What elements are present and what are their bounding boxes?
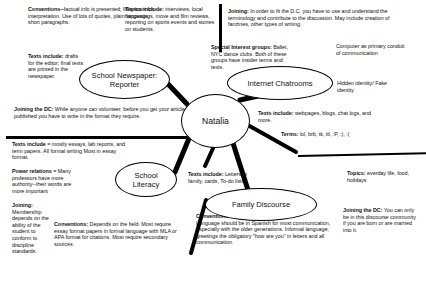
annotation-chatrooms-texts-head: Texts include: <box>258 110 293 116</box>
annotation-chatrooms-terms-head: Terms: <box>281 131 298 137</box>
annotation-school-joining-head: Joining: <box>12 202 33 208</box>
annotation-family-joining: Joining the DC: You can only be in this … <box>343 207 419 233</box>
annotation-family-joining-head: Joining the DC: <box>343 207 382 213</box>
annotation-chatrooms-terms: Terms: lol, brb, tk, ttl, :P, :), :( <box>281 131 401 138</box>
annotation-family-texts: Texts include: Letters to family, cards,… <box>188 171 254 184</box>
annotation-newspaper-topics-head: Topics include: <box>125 6 164 12</box>
node-school-literacy-label-line2: Literacy <box>133 180 160 189</box>
annotation-chatrooms-identity-text: Hidden identity/ Fake identity <box>337 80 387 93</box>
annotation-chatrooms-joining: Joining: In order to fit the D.C. you ha… <box>228 8 400 28</box>
annotation-newspaper-conventions-head: Conventions-- <box>28 6 64 12</box>
node-internet-chatrooms-label: Internet Chatrooms <box>248 79 313 88</box>
node-center-label: Natalia <box>202 117 229 126</box>
annotation-chatrooms-terms-body: lol, brb, tk, ttl, :P, :), :( <box>300 131 350 137</box>
node-family-discourse-label: Family Discourse <box>232 200 290 209</box>
node-school-newspaper[interactable]: School Newspaper: Reporter <box>79 60 170 99</box>
annotation-school-power-head: Power relations = <box>12 168 56 174</box>
mindmap-canvas: Conventions--factual info is presented; … <box>0 0 426 297</box>
annotation-chatrooms-texts: Texts include: webpages, blogs, chat log… <box>258 110 378 123</box>
annotation-school-conventions-head: Conventions: <box>54 221 88 227</box>
annotation-school-joining: Joining: Membership depends on the abili… <box>12 202 50 255</box>
annotation-school-power: Power relations = Many professors have m… <box>12 168 84 194</box>
divider-right <box>298 152 426 157</box>
annotation-newspaper-texts: Texts include: drafts for the editor; fi… <box>28 53 84 79</box>
annotation-newspaper-topics: Topics include: interviews, local happen… <box>125 6 215 32</box>
annotation-chatrooms-computer: Computer as primary conduit of communica… <box>336 43 410 56</box>
annotation-newspaper-texts-head: Texts include: <box>28 53 63 59</box>
node-school-literacy-label: School Literacy <box>133 171 160 189</box>
annotation-chatrooms-joining-head: Joining: <box>228 8 249 14</box>
divider-left <box>6 136 206 139</box>
node-center-natalia[interactable]: Natalia <box>181 94 250 148</box>
node-school-literacy-label-line1: School <box>134 171 157 180</box>
annotation-chatrooms-joining-body: In order to fit the D.C. you have to use… <box>228 8 390 27</box>
node-family-discourse[interactable]: Family Discourse <box>205 188 317 221</box>
node-school-newspaper-label: School Newspaper: Reporter <box>92 71 158 89</box>
annotation-chatrooms-special-head: Special Interest groups: <box>211 44 272 50</box>
node-school-newspaper-label-line1: School Newspaper: <box>92 71 158 80</box>
node-school-literacy[interactable]: School Literacy <box>115 162 177 197</box>
node-school-newspaper-label-line2: Reporter <box>110 80 140 89</box>
annotation-newspaper-joining: Joining the DC: While anyone can volunte… <box>14 106 192 119</box>
annotation-family-topics: Topics: everday life, food, holidays <box>347 170 423 183</box>
annotation-newspaper-joining-head: Joining the DC: <box>14 106 53 112</box>
annotation-chatrooms-computer-text: Computer as primary conduit of communica… <box>336 43 404 56</box>
annotation-family-conventions-body: Language should be in Spanish for most c… <box>196 220 330 246</box>
annotation-family-topics-head: Topics: <box>347 170 366 176</box>
annotation-school-joining-body: Membership depends on the ability of the… <box>12 209 49 255</box>
annotation-family-texts-head: Texts include: <box>188 171 223 177</box>
node-internet-chatrooms[interactable]: Internet Chatrooms <box>227 66 333 100</box>
annotation-school-conventions: Conventions: Depends on the field. Most … <box>54 221 180 247</box>
annotation-school-texts: Texts include = mostly essays, lab repor… <box>12 141 134 161</box>
annotation-chatrooms-identity: Hidden identity/ Fake identity <box>337 80 403 93</box>
annotation-school-texts-head: Texts include = <box>12 141 50 147</box>
